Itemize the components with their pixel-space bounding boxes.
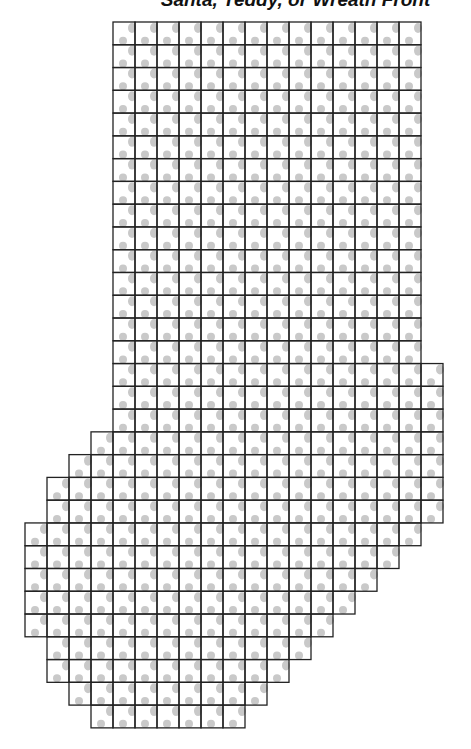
stitch-dots xyxy=(31,23,444,728)
knitting-chart-grid xyxy=(0,0,471,749)
